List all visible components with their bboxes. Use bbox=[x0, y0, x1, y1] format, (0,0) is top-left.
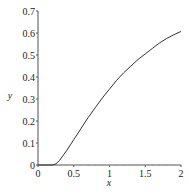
y-axis-label: y bbox=[7, 90, 13, 101]
y-tick-label: 0.3 bbox=[23, 94, 36, 105]
y-tick-label: 0 bbox=[30, 160, 35, 171]
x-tick-label: 0 bbox=[36, 168, 41, 179]
x-tick-label: 1.5 bbox=[139, 168, 152, 179]
y-tick-label: 0.5 bbox=[23, 50, 36, 61]
y-tick-label: 0.6 bbox=[23, 28, 36, 39]
y-tick-label: 0.4 bbox=[23, 72, 36, 83]
data-curve bbox=[38, 31, 181, 165]
x-tick-label: 2 bbox=[179, 168, 184, 179]
x-axis-label: x bbox=[106, 177, 112, 188]
y-tick-label: 0.2 bbox=[23, 116, 36, 127]
x-tick-label: 0.5 bbox=[68, 168, 81, 179]
y-axis: 00.10.20.30.40.50.60.7 bbox=[23, 6, 39, 171]
y-tick-label: 0.7 bbox=[23, 6, 36, 17]
line-chart: 00.10.20.30.40.50.60.7 00.511.52 x y bbox=[0, 0, 189, 196]
y-tick-label: 0.1 bbox=[23, 138, 36, 149]
